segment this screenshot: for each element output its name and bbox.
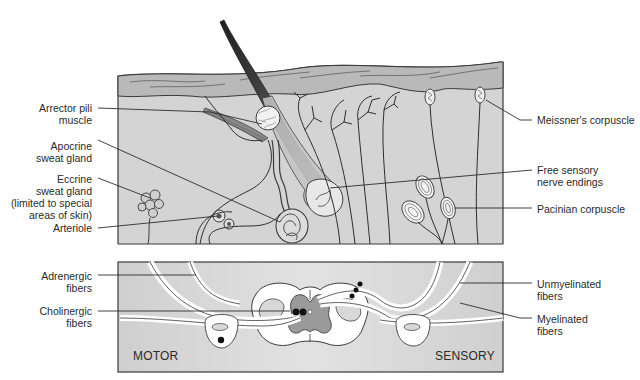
sebaceous-gland [256,106,280,130]
sensory-label: SENSORY [435,349,495,363]
label-meissner: Meissner's corpuscle [537,114,635,126]
central-canal [308,310,312,314]
label-eccrine: Eccrine sweat gland (limited to special … [11,173,92,221]
label-arteriole: Arteriole [53,222,92,234]
motor-label: MOTOR [133,349,178,363]
motor-neuron-dot [293,309,300,316]
apocrine-coil [276,209,308,243]
label-free-endings: Free sensory nerve endings [537,164,603,188]
label-myelinated: Myelinated fibers [537,313,588,337]
label-unmyelinated: Unmyelinated fibers [537,278,601,302]
skin-panel [98,20,532,244]
motor-neuron-dot [300,309,307,316]
label-apocrine: Apocrine sweat gland [36,140,92,164]
label-adrenergic: Adrenergic fibers [41,270,92,294]
label-pacinian: Pacinian corpuscle [537,203,625,215]
label-arrector-pili: Arrector pili muscle [39,102,92,126]
label-cholinergic: Cholinergic fibers [39,305,92,329]
